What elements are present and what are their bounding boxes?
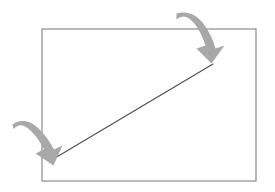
diagram-svg (0, 0, 275, 192)
diagram-canvas (0, 0, 275, 192)
curved-arrow-bottom-left-icon (13, 121, 63, 165)
diagonal-line (55, 64, 213, 158)
rectangle-outline (42, 29, 256, 181)
curved-arrow-top-right-icon (177, 12, 225, 63)
